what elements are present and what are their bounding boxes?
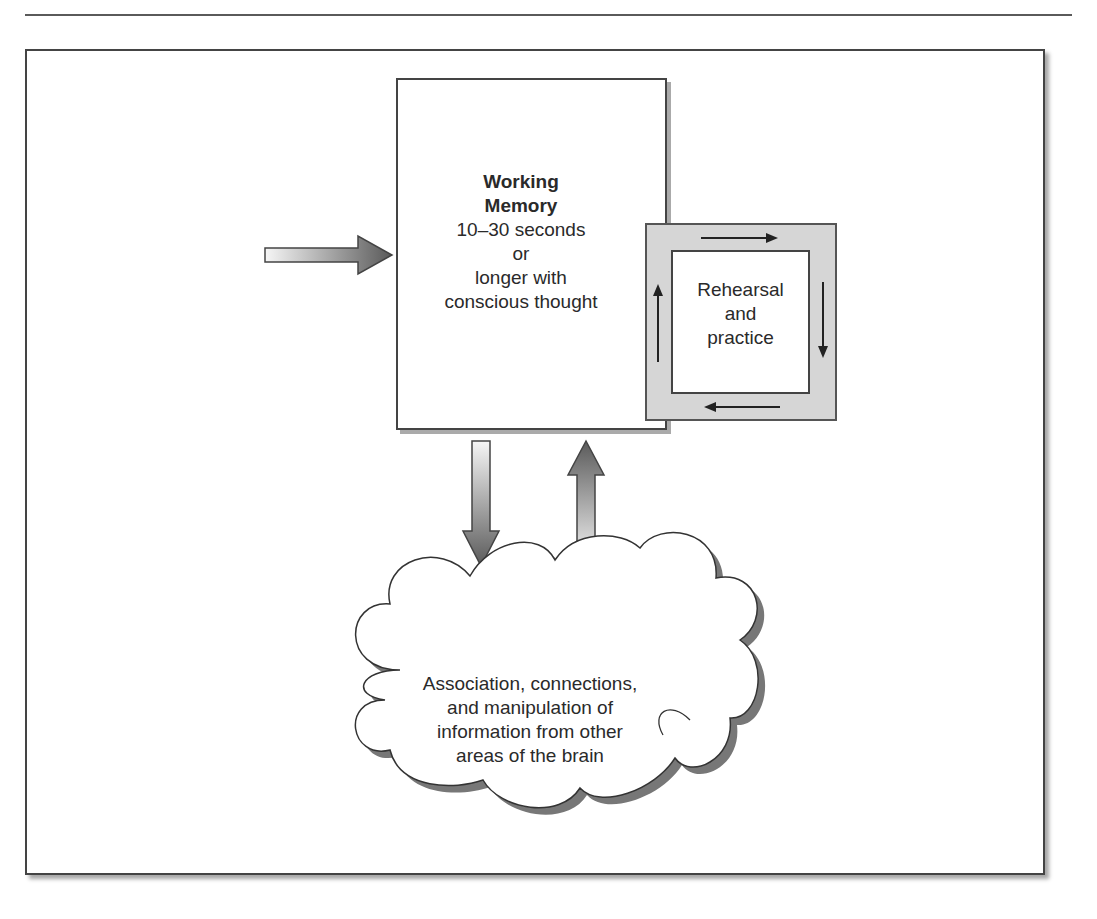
rehearsal-arrows: [0, 0, 1097, 919]
cloud-line-1: Association, connections,: [380, 672, 680, 696]
cloud-line-4: areas of the brain: [380, 744, 680, 768]
cloud-line-3: information from other: [380, 720, 680, 744]
rehearsal-line-2: and: [671, 302, 810, 326]
loop-arrow-up-icon: [653, 284, 663, 362]
rehearsal-line-1: Rehearsal: [671, 278, 810, 302]
rehearsal-line-3: practice: [671, 326, 810, 350]
cloud-label: Association, connections, and manipulati…: [380, 672, 680, 768]
rehearsal-label: Rehearsal and practice: [671, 278, 810, 350]
loop-arrow-left-icon: [704, 402, 780, 412]
cloud-line-2: and manipulation of: [380, 696, 680, 720]
loop-arrow-right-icon: [701, 233, 778, 243]
loop-arrow-down-icon: [818, 282, 828, 358]
